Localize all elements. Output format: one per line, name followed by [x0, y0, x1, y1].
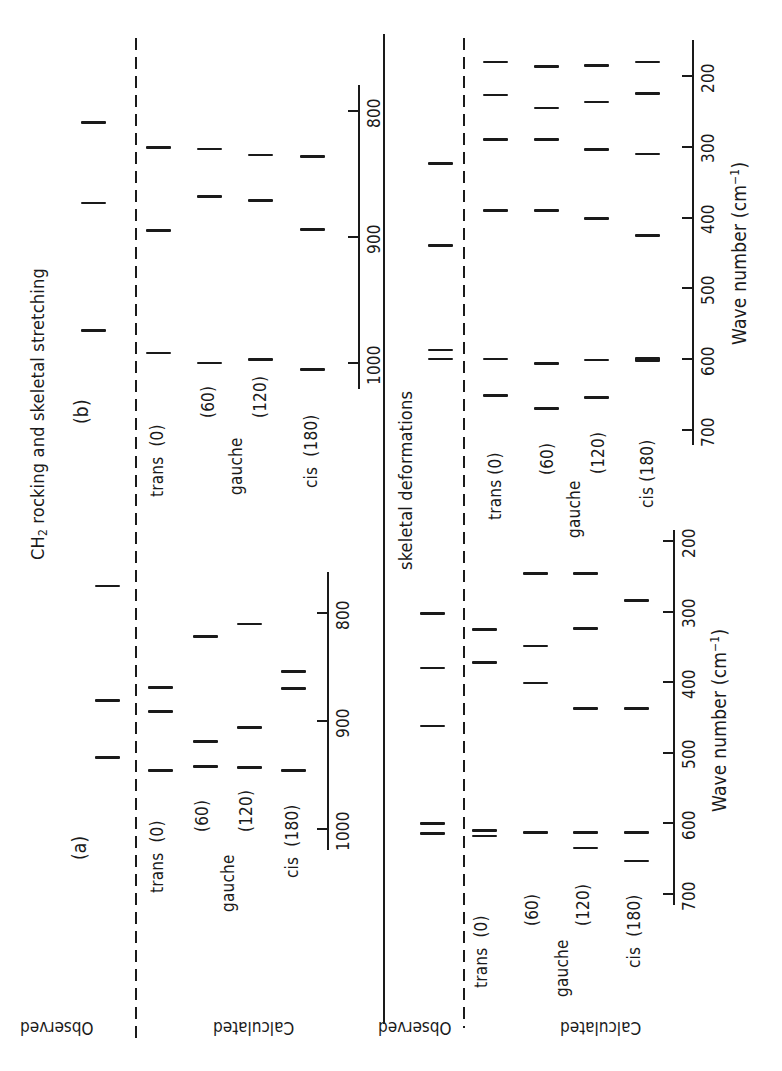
spectral-line-mark — [237, 726, 262, 729]
panel-label-a: (a) — [68, 836, 90, 860]
label-cis-180: cis (180) — [301, 415, 321, 488]
axis-tick-label: 300 — [679, 598, 699, 628]
axis-tick — [348, 236, 360, 238]
label-60-a: (60) — [192, 800, 212, 832]
axis-tick — [663, 611, 675, 613]
spectral-line-mark — [534, 362, 559, 365]
spectral-line-mark — [428, 162, 453, 165]
axis-tick — [663, 681, 675, 683]
title-skeletal-deformations: skeletal deformations — [395, 391, 416, 570]
axis-tick-label: 300 — [698, 134, 718, 164]
spectral-line-mark — [428, 244, 453, 247]
spectral-line-mark — [523, 682, 548, 685]
spectral-line-mark — [281, 769, 306, 772]
axis-tick — [317, 720, 329, 722]
spectral-line-mark — [146, 352, 171, 355]
spectral-line-mark — [523, 572, 548, 575]
spectral-line-mark — [197, 195, 222, 198]
spectral-line-mark — [584, 396, 609, 399]
row-header-calculated-right: Calculated — [560, 1018, 641, 1038]
spectral-line-mark — [584, 217, 609, 220]
row-header-calculated-left: Calculated — [213, 1018, 294, 1038]
spectral-line-mark — [300, 155, 325, 158]
spectral-line-mark — [472, 628, 497, 631]
spectral-line-mark — [624, 707, 649, 710]
axis-tick — [317, 612, 329, 614]
spectral-line-mark — [146, 229, 171, 232]
spectral-line-mark — [523, 831, 548, 834]
spectral-line-mark — [483, 394, 508, 397]
label-60-sb: (60) — [537, 443, 557, 475]
axis-tick-label: 800 — [333, 600, 353, 630]
spectral-line-mark — [95, 699, 120, 702]
spectral-line-mark — [95, 585, 120, 588]
spectral-line-mark — [573, 627, 598, 630]
axis-tick-label: 900 — [364, 224, 384, 254]
spectral-line-mark — [420, 612, 445, 615]
spectral-line-mark — [483, 358, 508, 361]
spectral-line-mark — [81, 121, 106, 124]
label-gauche-sb: gauche — [564, 481, 584, 539]
axis-tick-label: 400 — [679, 669, 699, 699]
axis-tick-label: 1000 — [364, 345, 384, 385]
axis-tick — [682, 429, 694, 431]
spectral-line-mark — [472, 829, 497, 832]
spectral-line-mark — [193, 740, 218, 743]
axis-tick — [663, 540, 675, 542]
spectral-line-mark — [534, 138, 559, 141]
spectral-line-mark — [534, 407, 559, 410]
spectral-line-mark — [635, 234, 660, 237]
wavenumber-axis — [673, 530, 675, 905]
axis-tick — [663, 752, 675, 754]
spectral-line-mark — [472, 661, 497, 664]
axis-tick-label: 800 — [364, 98, 384, 128]
axis-tick-label: 600 — [679, 810, 699, 840]
observed-calculated-divider-left — [135, 38, 137, 1038]
spectral-line-mark — [483, 61, 508, 64]
label-trans-0-sa: trans (0) — [471, 915, 491, 988]
axis-tick-label: 700 — [698, 417, 718, 447]
spectral-line-mark — [193, 635, 218, 638]
label-cis-180-a: cis (180) — [282, 805, 302, 878]
row-header-observed-left: Observed — [20, 1018, 94, 1038]
xlabel-top: Wave number (cm−1) — [728, 162, 750, 345]
label-trans-0-sb: trans (0) — [485, 452, 505, 520]
label-120-sa: (120) — [573, 884, 593, 926]
spectral-line-mark — [300, 368, 325, 371]
label-60-sa: (60) — [522, 894, 542, 926]
spectral-line-mark — [81, 329, 106, 332]
spectral-line-mark — [472, 835, 497, 838]
axis-tick — [682, 146, 694, 148]
spectral-line-mark — [193, 765, 218, 768]
axis-tick-label: 900 — [333, 708, 353, 738]
label-trans-0: trans (0) — [147, 424, 167, 497]
axis-tick — [682, 75, 694, 77]
axis-tick — [348, 362, 360, 364]
spectral-line-mark — [573, 847, 598, 850]
spectral-line-mark — [624, 860, 649, 863]
xlabel-bottom: Wave number (cm−1) — [708, 629, 730, 812]
title-ch2-rocking: CH2 rocking and skeletal stretching — [27, 268, 50, 560]
spectral-line-mark — [248, 199, 273, 202]
axis-tick — [682, 358, 694, 360]
spectral-line-mark — [420, 832, 445, 835]
spectral-line-mark — [420, 725, 445, 728]
spectral-line-mark — [428, 349, 453, 352]
spectral-line-mark — [624, 599, 649, 602]
axis-tick-label: 500 — [698, 275, 718, 305]
spectral-line-mark — [428, 358, 453, 361]
spectral-line-mark — [248, 358, 273, 361]
axis-tick — [663, 822, 675, 824]
axis-tick — [663, 893, 675, 895]
axis-tick-label: 500 — [679, 740, 699, 770]
spectral-line-mark — [300, 228, 325, 231]
ch2-skeletal-separator — [383, 34, 385, 1024]
spectral-line-mark — [197, 362, 222, 365]
panel-label-b: (b) — [70, 399, 92, 424]
spectral-line-mark — [237, 623, 262, 626]
spectral-line-mark — [573, 831, 598, 834]
spectral-line-mark — [95, 756, 120, 759]
spectral-line-mark — [81, 202, 106, 205]
spectral-line-mark — [148, 686, 173, 689]
axis-tick-label: 700 — [679, 881, 699, 911]
